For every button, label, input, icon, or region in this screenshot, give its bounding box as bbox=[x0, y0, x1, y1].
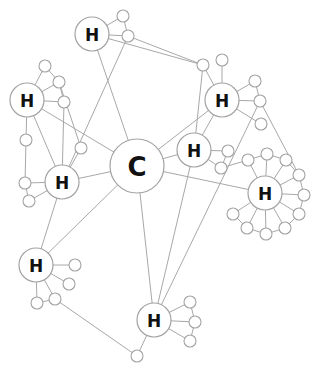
leaf-node bbox=[58, 96, 70, 108]
leaf-node bbox=[293, 208, 305, 220]
leaf-node bbox=[131, 350, 143, 362]
edge-c1-b2 bbox=[59, 82, 81, 148]
leaf-node bbox=[20, 134, 32, 146]
hub-label: H bbox=[258, 184, 272, 204]
leaf-node bbox=[197, 59, 209, 71]
leaf-node bbox=[255, 118, 267, 130]
leaf-node bbox=[75, 142, 87, 154]
leaf-node bbox=[242, 154, 254, 166]
leaf-node bbox=[39, 60, 51, 72]
network-diagram: CHHHHHHHH bbox=[0, 0, 318, 371]
leaf-node bbox=[189, 316, 201, 328]
leaf-node bbox=[117, 10, 129, 22]
hub-label: H bbox=[147, 311, 161, 331]
leaf-node bbox=[298, 189, 310, 201]
leaf-node bbox=[261, 148, 273, 160]
hub-label: H bbox=[55, 173, 69, 193]
hub-label: H bbox=[187, 141, 201, 161]
leaf-node bbox=[63, 278, 75, 290]
edge-d4-f4 bbox=[260, 101, 299, 175]
hub-node-h6: H bbox=[248, 176, 282, 210]
hub-label: H bbox=[215, 91, 229, 111]
edge-g4-k1 bbox=[55, 299, 137, 356]
hub-node-h3: H bbox=[45, 165, 79, 199]
hub-label: H bbox=[85, 25, 99, 45]
hub-node-h4: H bbox=[205, 83, 239, 117]
leaf-node bbox=[279, 222, 291, 234]
leaf-node bbox=[215, 162, 227, 174]
leaf-node bbox=[222, 145, 234, 157]
leaf-node bbox=[293, 169, 305, 181]
hub-label: H bbox=[29, 256, 43, 276]
hub-node-h1: H bbox=[75, 17, 109, 51]
hub-node-h2: H bbox=[10, 83, 44, 117]
hub-label: H bbox=[20, 91, 34, 111]
edge-d4-H8 bbox=[154, 101, 260, 320]
hub-node-c: C bbox=[110, 139, 164, 193]
leaf-node bbox=[280, 154, 292, 166]
leaf-node bbox=[260, 228, 272, 240]
leaf-node bbox=[49, 293, 61, 305]
leaf-node bbox=[19, 177, 31, 189]
leaf-node bbox=[184, 296, 196, 308]
leaf-node bbox=[254, 95, 266, 107]
leaf-node bbox=[69, 259, 81, 271]
leaf-node bbox=[23, 195, 35, 207]
leaf-node bbox=[184, 335, 196, 347]
leaf-node bbox=[122, 30, 134, 42]
leaf-node bbox=[227, 208, 239, 220]
leaf-node bbox=[249, 75, 261, 87]
hub-node-h5: H bbox=[177, 133, 211, 167]
leaf-node bbox=[53, 76, 65, 88]
hub-node-h7: H bbox=[19, 248, 53, 282]
leaf-node bbox=[31, 297, 43, 309]
leaf-node bbox=[241, 222, 253, 234]
edge-a2-d1 bbox=[128, 36, 203, 65]
leaf-node bbox=[216, 54, 228, 66]
hub-node-h8: H bbox=[137, 303, 171, 337]
hub-label: C bbox=[127, 152, 146, 182]
